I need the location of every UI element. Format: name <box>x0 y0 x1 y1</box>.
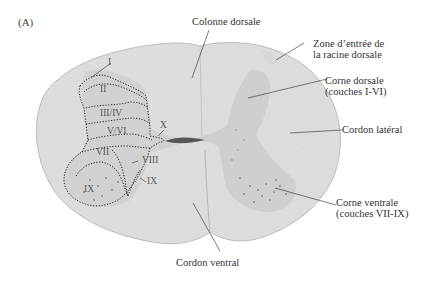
lamina-III-IV: III/IV <box>100 108 122 118</box>
label-cordon-ventral: Cordon ventral <box>176 257 239 268</box>
lamina-IX-lateral: IX <box>84 184 94 194</box>
lamina-II: II <box>100 84 106 94</box>
lamina-V-VI: V/VI <box>107 126 127 136</box>
panel-label: (A) <box>18 16 33 28</box>
label-corne-dorsale-line1: Corne dorsale <box>325 75 387 86</box>
lamina-VIII: VIII <box>142 155 158 165</box>
label-colonne-dorsale: Colonne dorsale <box>192 16 261 27</box>
label-corne-dorsale-line2: (couches I-VI) <box>325 86 387 97</box>
label-colonne-dorsale-line1: Colonne dorsale <box>192 16 261 27</box>
label-corne-ventrale-line2: (couches VII-IX) <box>336 208 408 219</box>
label-cordon-ventral-line1: Cordon ventral <box>176 257 239 268</box>
lamina-VII: VII <box>96 147 109 157</box>
label-zone-entree: Zone d’entrée de la racine dorsale <box>313 38 384 60</box>
label-corne-ventrale-line1: Corne ventrale <box>336 197 408 208</box>
label-zone-entree-line2: la racine dorsale <box>313 49 384 60</box>
label-zone-entree-line1: Zone d’entrée de <box>313 38 384 49</box>
label-corne-ventrale: Corne ventrale (couches VII-IX) <box>336 197 408 219</box>
label-cordon-lateral: Cordon latéral <box>342 124 402 135</box>
spinal-cord-figure: (A) Colonne dorsale Zone d’entrée de la … <box>0 0 427 283</box>
label-cordon-lateral-line1: Cordon latéral <box>342 124 402 135</box>
label-corne-dorsale: Corne dorsale (couches I-VI) <box>325 75 387 97</box>
lamina-IX-medial: IX <box>147 176 157 186</box>
lamina-X: X <box>160 120 167 130</box>
lamina-I: I <box>108 57 111 67</box>
